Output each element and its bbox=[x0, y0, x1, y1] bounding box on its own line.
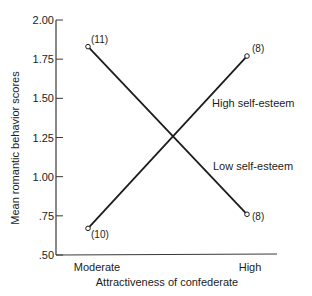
x-axis-label: Attractiveness of confederate bbox=[96, 276, 238, 288]
data-point-marker bbox=[245, 212, 250, 217]
series-label-high-self-esteem: High self-esteem bbox=[212, 97, 295, 109]
sample-size-label: (10) bbox=[91, 229, 109, 240]
data-point-marker bbox=[86, 226, 91, 231]
y-tick-label: .75 bbox=[39, 210, 54, 222]
y-tick-label: 1.00 bbox=[33, 171, 54, 183]
series-label-low-self-esteem: Low self-esteem bbox=[213, 160, 293, 172]
y-tick-label: .50 bbox=[39, 249, 54, 261]
data-point-marker bbox=[245, 54, 250, 59]
sample-size-label: (8) bbox=[252, 211, 264, 222]
x-tick-label-high: High bbox=[239, 261, 262, 273]
y-tick-label: 1.25 bbox=[33, 132, 54, 144]
x-tick-label-moderate: Moderate bbox=[74, 261, 120, 273]
interaction-line-chart: 2.001.751.501.251.00.75.50 Mean romantic… bbox=[0, 0, 312, 296]
y-ticks: 2.001.751.501.251.00.75.50 bbox=[33, 14, 63, 261]
y-tick-label: 1.50 bbox=[33, 92, 54, 104]
y-axis-label: Mean romantic behavior scores bbox=[9, 71, 21, 225]
series-layer: (10)(8)(11)(8) bbox=[86, 34, 265, 241]
sample-size-label: (8) bbox=[252, 43, 264, 54]
sample-size-label: (11) bbox=[91, 34, 108, 45]
data-point-marker bbox=[86, 44, 91, 49]
x-axis bbox=[56, 254, 277, 255]
series-line bbox=[88, 47, 247, 215]
y-tick-label: 2.00 bbox=[33, 14, 54, 26]
y-tick-label: 1.75 bbox=[33, 53, 54, 65]
series-line bbox=[88, 56, 247, 228]
